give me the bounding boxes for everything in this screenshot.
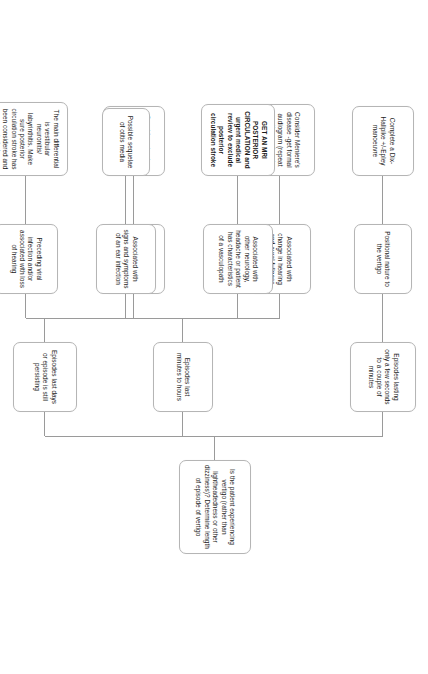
node-branch3-child3-label: Preceding viral infection and/or associa… [9, 229, 43, 289]
node-branch3-leaf2-label: Possible sequelae of otitis media [118, 113, 135, 171]
node-root[interactable]: Is the patient experiencing vertigo (rat… [179, 460, 251, 554]
edge-branch1-child [382, 294, 383, 342]
edge-branch3-child3 [25, 294, 26, 318]
edge-branch3-child1-leaf [237, 176, 238, 224]
edge-trunk-vertical [45, 436, 383, 437]
node-branch3-leaf2[interactable]: Possible sequelae of otitis media [102, 108, 150, 176]
node-branch3[interactable]: Episodes last days or episode is still p… [13, 342, 77, 412]
edge-branch3-stub [44, 318, 45, 342]
node-branch3-child1[interactable]: Associated with other neurology, headach… [203, 224, 273, 294]
node-branch3-leaf1-label: GET AN MRI POSTERIOR CIRCULATION and urg… [208, 109, 267, 171]
edge-trunk-branch3 [44, 412, 45, 436]
edge-branch3-child2-leaf [125, 176, 126, 224]
node-branch3-child2[interactable]: Associated with signs and symptoms of an… [96, 224, 156, 294]
edge-branch1-child-leaf [382, 176, 383, 224]
flowchart-canvas: Is the patient experiencing vertigo (rat… [0, 0, 428, 674]
node-branch3-leaf3[interactable]: The main differential is vestibular neur… [0, 102, 68, 176]
edge-branch2-child2-leaf [133, 176, 134, 224]
node-root-label: Is the patient experiencing vertigo (rat… [194, 465, 236, 549]
node-branch3-leaf3-label: The main differential is vestibular neur… [0, 107, 60, 171]
node-branch1[interactable]: Episodes lasting only a few seconds to a… [350, 342, 416, 412]
edge-branch3-vertical [26, 318, 238, 319]
edge-root-trunk [214, 436, 215, 460]
node-branch1-child[interactable]: Positional nature to the vertigo [354, 224, 412, 294]
node-branch3-child2-label: Associated with signs and symptoms of an… [113, 229, 138, 289]
node-branch2[interactable]: Episodes last minutes to hours [153, 342, 213, 412]
node-branch3-child3[interactable]: Preceding viral infection and/or associa… [0, 224, 58, 294]
flowchart-page: Is the patient experiencing vertigo (rat… [0, 0, 428, 674]
node-branch1-label: Episodes lasting only a few seconds to a… [366, 347, 400, 407]
edge-branch2-stub [182, 318, 183, 342]
node-branch1-leaf[interactable]: Complete a Dix-Hallpike +/-Epley manoeuv… [352, 106, 414, 176]
edge-branch2-child1 [279, 294, 280, 318]
edge-branch2-child1-leaf [279, 176, 280, 224]
node-branch3-label: Episodes last days or episode is still p… [32, 347, 57, 407]
edge-branch2-child2 [133, 294, 134, 318]
node-branch1-leaf-label: Complete a Dix-Hallpike +/-Epley manoeuv… [370, 111, 395, 171]
edge-branch3-child1 [237, 294, 238, 318]
edge-branch3-child2 [125, 294, 126, 318]
edge-branch3-child3-leaf [25, 176, 26, 224]
node-branch3-child1-label: Associated with other neurology, headach… [217, 229, 259, 289]
node-branch2-label: Episodes last minutes to hours [175, 347, 192, 407]
edge-trunk-branch1 [382, 412, 383, 436]
node-branch3-leaf1[interactable]: GET AN MRI POSTERIOR CIRCULATION and urg… [201, 104, 275, 176]
node-branch1-child-label: Positional nature to the vertigo [375, 229, 392, 289]
edge-trunk-branch2 [182, 412, 183, 436]
